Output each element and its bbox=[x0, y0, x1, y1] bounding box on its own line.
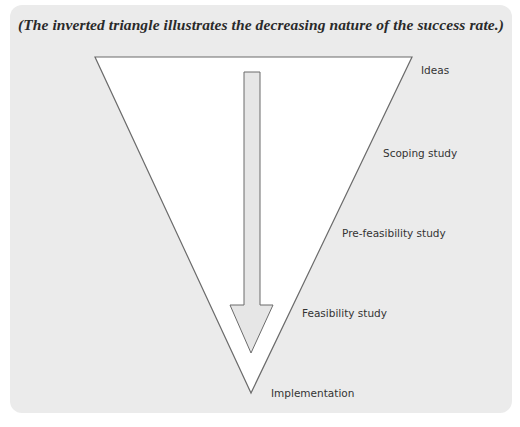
stage-label-feasibility-study: Feasibility study bbox=[302, 307, 387, 319]
stage-label-scoping-study: Scoping study bbox=[383, 147, 457, 159]
stage-label-implementation: Implementation bbox=[271, 387, 354, 399]
stage-label-ideas: Ideas bbox=[421, 64, 449, 76]
stage-label-pre-feasibility-study: Pre-feasibility study bbox=[342, 227, 446, 239]
